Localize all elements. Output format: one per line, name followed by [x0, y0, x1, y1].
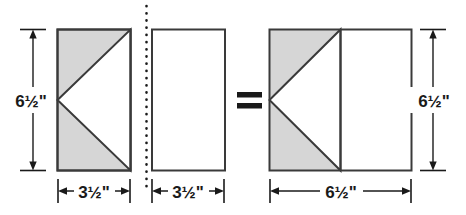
- arrowhead-down: [29, 162, 36, 171]
- arrowhead-left: [270, 187, 279, 194]
- result-height-dimension: 6½": [409, 30, 459, 171]
- arrowhead-left: [152, 187, 161, 194]
- assembled-square-shape: [270, 30, 412, 171]
- left-height-label: 6½": [15, 92, 47, 111]
- result-height-label: 6½": [418, 92, 450, 111]
- arrowhead-right: [121, 187, 130, 194]
- equals-bar-top: [237, 92, 262, 98]
- arrowhead-left: [58, 187, 67, 194]
- plain-rectangle-outline: [152, 30, 225, 171]
- arrowhead-right: [402, 187, 411, 194]
- plain-rectangle-shape: [152, 30, 225, 171]
- arrowhead-down: [429, 162, 436, 171]
- arrowhead-up: [429, 30, 436, 39]
- result-width-label: 6½": [325, 183, 357, 202]
- unit2-width-dimension: 3½": [152, 179, 224, 204]
- unit1-width-dimension: 3½": [58, 179, 130, 204]
- equals-sign: [237, 92, 262, 109]
- unit2-width-label: 3½": [172, 183, 204, 202]
- pieced-unit-shape: [58, 30, 131, 171]
- arrowhead-right: [215, 187, 224, 194]
- result-width-dimension: 6½": [270, 179, 411, 204]
- unit1-width-label: 3½": [78, 183, 110, 202]
- equals-bar-bottom: [237, 103, 262, 109]
- diagram-canvas: 6½" 3½": [0, 0, 466, 215]
- quilt-assembly-diagram: 6½" 3½": [0, 0, 466, 215]
- left-height-dimension: 6½": [6, 30, 56, 171]
- arrowhead-up: [29, 30, 36, 39]
